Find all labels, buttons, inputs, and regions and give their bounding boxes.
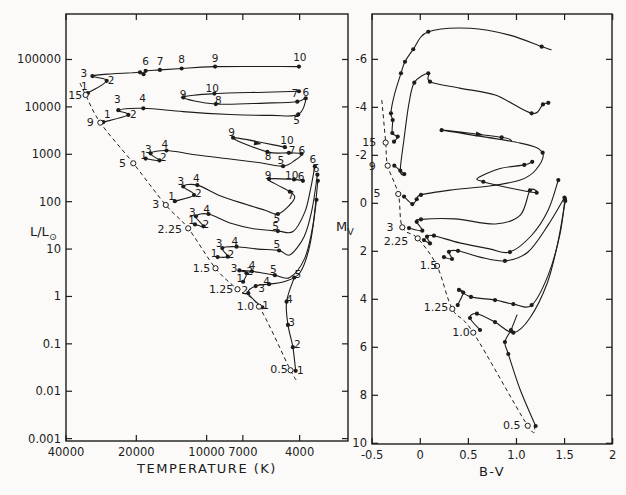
evolution-point-dot bbox=[530, 303, 534, 307]
point-number-label: 4 bbox=[232, 235, 239, 247]
mass-label: 1.25 bbox=[424, 301, 449, 314]
evolution-point-dot bbox=[402, 195, 406, 199]
track-9-msun: 12345678910 bbox=[101, 82, 309, 125]
point-number-label: 5 bbox=[278, 154, 285, 166]
point-number-label: 2 bbox=[108, 74, 115, 86]
evolution-point-dot bbox=[535, 191, 539, 195]
evolution-point-dot bbox=[432, 234, 436, 238]
evolution-point-dot bbox=[316, 179, 320, 183]
point-number-label: 2 bbox=[228, 248, 235, 260]
y-tick-label: 1 bbox=[54, 289, 61, 303]
evolution-point-dot bbox=[411, 47, 415, 51]
evolution-point-dot bbox=[509, 328, 513, 332]
zams-circle-marker bbox=[450, 306, 455, 311]
zams-dashed-line bbox=[382, 100, 535, 433]
track-9-msun bbox=[392, 71, 550, 176]
point-number-label: 8 bbox=[265, 150, 272, 162]
evolution-point-dot bbox=[410, 202, 414, 206]
panel-hr-diagram-luminosity-vs-temperature: 1236789101234567891012345678910123457910… bbox=[17, 14, 348, 476]
point-number-label: 2 bbox=[195, 187, 202, 199]
evolution-point-dot bbox=[442, 255, 446, 259]
point-number-label: 1 bbox=[262, 299, 269, 311]
zams-circle-marker bbox=[186, 226, 191, 231]
mass-label: 0.5 bbox=[270, 363, 288, 376]
y-tick-label: 0.01 bbox=[35, 384, 61, 398]
y-axis-title: L/L⊙ bbox=[30, 224, 57, 242]
y-tick-label: -6 bbox=[356, 52, 367, 66]
point-number-label: 4 bbox=[161, 138, 168, 150]
evolution-point-dot bbox=[556, 178, 560, 182]
mass-labels: 159532.251.51.251.00.5 bbox=[68, 89, 287, 377]
point-number-label: 7 bbox=[292, 87, 299, 99]
x-axis-title: B-V bbox=[479, 464, 505, 479]
panel-hr-diagram-mv-vs-bv: 159532.251.51.251.00.5-0.500.51.01.52-6-… bbox=[336, 14, 616, 479]
evolution-point-dot bbox=[90, 74, 94, 78]
zams-circle-marker bbox=[400, 225, 405, 230]
track-3-msun bbox=[407, 160, 539, 233]
evolution-point-dot bbox=[478, 328, 482, 332]
point-number-label: 5 bbox=[273, 238, 280, 250]
evolution-point-dot bbox=[469, 295, 473, 299]
zams-circle-marker bbox=[471, 330, 476, 335]
point-number-label: 3 bbox=[114, 93, 121, 105]
point-number-label: 3 bbox=[145, 143, 152, 155]
evolution-point-dot bbox=[563, 199, 567, 203]
x-tick-label: 1.5 bbox=[555, 448, 573, 462]
evolution-point-dot bbox=[425, 235, 429, 239]
x-tick-label: 0.5 bbox=[459, 448, 477, 462]
plot-area bbox=[382, 28, 568, 433]
mass-labels: 159532.251.51.251.00.5 bbox=[362, 136, 520, 431]
evolution-point-dot bbox=[493, 320, 497, 324]
point-number-label: 1 bbox=[104, 108, 111, 120]
evolution-point-dot bbox=[297, 65, 301, 69]
evolution-point-dot bbox=[530, 160, 534, 164]
track-5-msun: 12345678910 bbox=[140, 126, 305, 168]
x-tick-label: 20000 bbox=[118, 445, 155, 459]
evolution-point-dot bbox=[481, 180, 485, 184]
point-number-label: 6 bbox=[298, 170, 305, 182]
point-number-label: 5 bbox=[272, 220, 279, 232]
zams-dashed-line bbox=[80, 83, 298, 382]
zams-circle-marker bbox=[385, 163, 390, 168]
y-tick-label: -2 bbox=[356, 148, 367, 162]
evolution-point-dot bbox=[392, 164, 396, 168]
evolution-point-dot bbox=[500, 135, 504, 139]
evolution-point-dot bbox=[407, 226, 411, 230]
mass-label: 2.25 bbox=[157, 223, 182, 236]
point-number-label: 2 bbox=[242, 284, 249, 296]
tick-labels: 4000020000100007000400010000010000100010… bbox=[17, 52, 314, 459]
evolution-point-dot bbox=[428, 241, 432, 245]
evolution-track-line bbox=[409, 162, 538, 231]
stellar-evolution-tracks-chart: 1236789101234567891012345678910123457910… bbox=[0, 0, 626, 495]
y-tick-label: 1000 bbox=[32, 147, 61, 161]
direction-arrow bbox=[254, 140, 262, 146]
plot-area: 1236789101234567891012345678910123457910… bbox=[80, 51, 320, 382]
track-2.25-msun bbox=[422, 178, 561, 254]
point-number-label: 10 bbox=[293, 51, 306, 63]
point-number-label: 1 bbox=[168, 190, 175, 202]
evolution-point-dot bbox=[254, 284, 258, 288]
zams-circle-marker bbox=[163, 202, 168, 207]
point-number-label: 10 bbox=[280, 134, 293, 146]
evolution-point-dot bbox=[493, 298, 497, 302]
track-15-msun: 123678910 bbox=[80, 51, 306, 95]
y-tick-label: 10 bbox=[352, 436, 367, 450]
evolution-point-dot bbox=[534, 424, 538, 428]
point-number-label: 7 bbox=[289, 144, 296, 156]
evolution-point-dot bbox=[295, 100, 299, 104]
evolution-point-dot bbox=[456, 249, 460, 253]
evolution-point-dot bbox=[158, 68, 162, 72]
evolution-point-dot bbox=[440, 128, 444, 132]
evolution-point-dot bbox=[528, 188, 532, 192]
evolution-point-dot bbox=[468, 316, 472, 320]
evolution-track-line bbox=[444, 198, 565, 261]
zams-circle-marker bbox=[256, 304, 261, 309]
x-tick-label: 4000 bbox=[285, 445, 314, 459]
evolution-point-dot bbox=[541, 102, 545, 106]
mass-label: 1.5 bbox=[193, 262, 211, 275]
mass-label: 5 bbox=[119, 157, 126, 170]
evolution-point-dot bbox=[141, 106, 145, 110]
point-number-label: 8 bbox=[178, 53, 185, 65]
x-tick-label: 10000 bbox=[188, 445, 225, 459]
point-number-label: 2 bbox=[130, 108, 137, 120]
